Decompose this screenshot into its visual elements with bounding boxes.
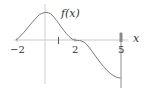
tick-label-2: 2	[72, 44, 78, 55]
function-diagram: f(x) x −2 2 5	[0, 0, 146, 91]
function-curve	[16, 12, 122, 78]
x-axis-label: x	[133, 32, 140, 45]
marker-handle	[120, 33, 123, 42]
tick-label-5: 5	[118, 44, 124, 55]
tick-label-minus-2: −2	[10, 44, 25, 55]
function-label: f(x)	[60, 7, 80, 20]
